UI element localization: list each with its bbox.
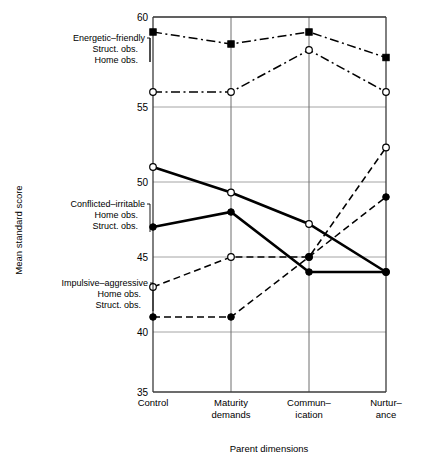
- legend-energetic-line2: Home obs.: [94, 55, 138, 65]
- x-gridlines: [231, 17, 309, 392]
- legend-impulsive-line2: Struct. obs.: [95, 300, 141, 310]
- data-point-marker: [228, 89, 235, 96]
- x-label-maturity-line1: Maturity: [214, 397, 248, 408]
- data-point-marker: [150, 89, 157, 96]
- y-tick-55: 55: [137, 102, 149, 113]
- data-point-marker: [228, 314, 235, 321]
- legend-connector-energetic: [147, 38, 150, 62]
- data-point-marker: [383, 194, 390, 201]
- series-5: [150, 144, 390, 290]
- data-point-marker: [228, 209, 235, 216]
- legend-conflicted-line1: Home obs.: [94, 210, 138, 220]
- x-label-communication-line1: Commun–: [287, 397, 332, 408]
- series-line-2: [153, 50, 386, 92]
- series-line-4: [153, 212, 386, 272]
- series-1: [150, 29, 389, 61]
- data-point-marker: [228, 254, 235, 261]
- legend-impulsive-title: Impulsive–aggressive: [61, 278, 148, 288]
- data-point-marker: [150, 164, 157, 171]
- legend-conflicted-line2: Struct. obs.: [92, 221, 138, 231]
- data-point-marker: [306, 221, 313, 228]
- x-label-control-line1: Control: [138, 397, 169, 408]
- x-label-nurturance-line2: ance: [376, 409, 397, 420]
- data-series-layer: [150, 29, 390, 321]
- y-tick-40: 40: [137, 327, 149, 338]
- x-label-nurturance-line1: Nurtur–: [370, 397, 402, 408]
- x-label-maturity-line2: demands: [211, 409, 250, 420]
- series-4: [150, 209, 390, 276]
- x-axis-title: Parent dimensions: [230, 443, 309, 454]
- data-point-marker: [383, 54, 389, 60]
- y-gridlines: [153, 17, 386, 332]
- legend-impulsive-line1: Home obs.: [97, 289, 141, 299]
- data-point-marker: [150, 224, 157, 231]
- y-tick-45: 45: [137, 252, 149, 263]
- y-tick-50: 50: [137, 177, 149, 188]
- y-tick-60: 60: [137, 12, 149, 23]
- data-point-marker: [306, 29, 312, 35]
- data-point-marker: [306, 254, 313, 261]
- plot-frame: [153, 17, 386, 392]
- legend-energetic-title: Energetic–friendly: [73, 33, 146, 43]
- series-2: [150, 47, 390, 96]
- legend-group: Energetic–friendly Struct. obs. Home obs…: [61, 33, 148, 310]
- data-point-marker: [306, 47, 313, 54]
- legend-energetic-line1: Struct. obs.: [92, 44, 138, 54]
- line-chart-canvas: 60 55 50 45 40 35 Control Maturity deman…: [0, 0, 422, 473]
- data-point-marker: [383, 144, 390, 151]
- data-point-marker: [228, 41, 234, 47]
- data-point-marker: [150, 29, 156, 35]
- series-line-1: [153, 32, 386, 58]
- x-label-communication-line2: ication: [295, 409, 322, 420]
- data-point-marker: [150, 314, 157, 321]
- series-line-5: [153, 148, 386, 288]
- x-tick-labels: Control Maturity demands Commun– ication…: [138, 397, 403, 420]
- data-point-marker: [228, 189, 235, 196]
- data-point-marker: [383, 269, 390, 276]
- legend-conflicted-title: Conflicted–irritable: [70, 199, 145, 209]
- y-axis-title: Mean standard score: [13, 185, 24, 274]
- data-point-marker: [383, 89, 390, 96]
- legend-connector-conflicted: [147, 204, 150, 232]
- data-point-marker: [306, 269, 313, 276]
- chart-figure: 60 55 50 45 40 35 Control Maturity deman…: [0, 0, 422, 473]
